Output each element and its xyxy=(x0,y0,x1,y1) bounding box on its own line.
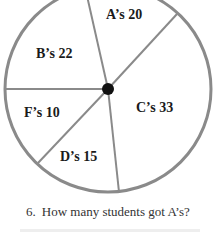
question-6: 6.How many students got A’s? xyxy=(26,204,190,220)
slice-label-b: B’s 22 xyxy=(36,46,72,61)
slice-label-f: F’s 10 xyxy=(24,105,60,120)
pie-chart: A’s 20 B’s 22 F’s 10 D’s 15 C’s 33 xyxy=(0,0,215,233)
question-number: 6. xyxy=(26,204,36,219)
center-dot xyxy=(102,83,114,95)
question-text: How many students got A’s? xyxy=(42,204,190,219)
slice-label-a: A’s 20 xyxy=(106,7,142,22)
answer-line xyxy=(20,229,200,232)
slice-label-c: C’s 33 xyxy=(136,100,173,115)
slice-label-d: D’s 15 xyxy=(60,149,97,164)
